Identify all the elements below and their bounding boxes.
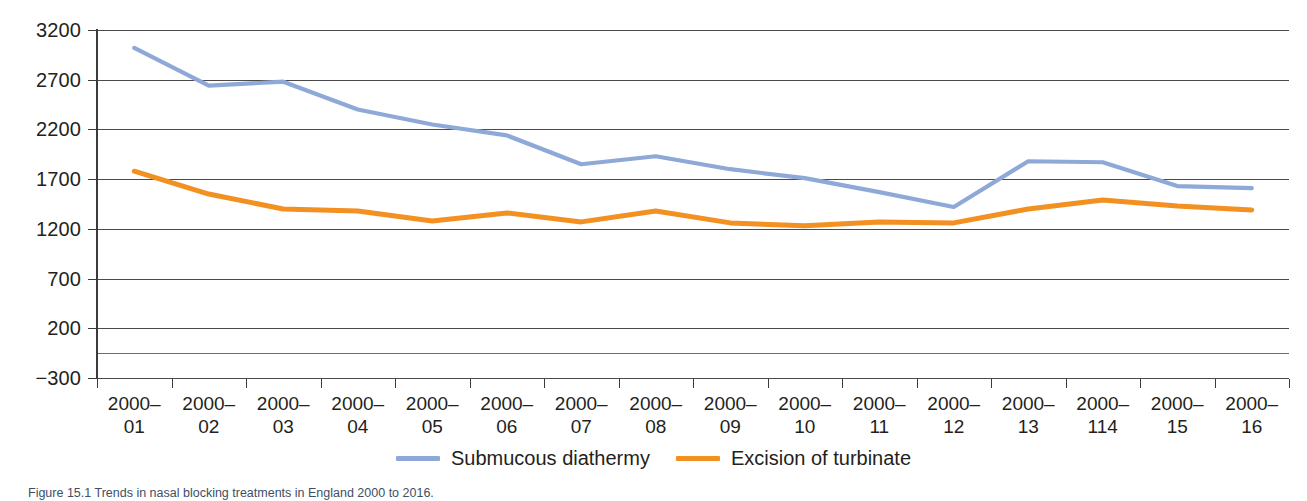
x-axis-tick (321, 379, 322, 388)
chart-legend: Submucous diathermyExcision of turbinate (0, 447, 1307, 469)
x-axis-tick (693, 379, 694, 388)
x-axis-tick (470, 379, 471, 388)
legend-label: Excision of turbinate (731, 447, 911, 469)
y-axis-tick-label: 200 (47, 318, 81, 338)
x-axis-tick (917, 379, 918, 388)
y-axis-tick-label: −300 (36, 368, 81, 388)
y-axis-tick-label: 2700 (36, 70, 81, 90)
x-axis-tick (1215, 379, 1216, 388)
x-axis-label-line1: 2000– (1204, 392, 1300, 415)
x-axis-tick (991, 379, 992, 388)
x-axis-tick (1289, 379, 1290, 388)
legend-swatch-icon (676, 456, 720, 461)
plot-area (97, 30, 1289, 378)
x-axis-tick (768, 379, 769, 388)
x-axis-tick (619, 379, 620, 388)
x-axis-tick (544, 379, 545, 388)
series-layer (97, 30, 1289, 378)
y-axis-tick-label: 700 (47, 269, 81, 289)
y-axis-tick-label: 1200 (36, 219, 81, 239)
series-line-1 (134, 48, 1252, 207)
x-axis-label-line2: 16 (1204, 415, 1300, 438)
legend-entry[interactable]: Submucous diathermy (396, 447, 650, 469)
x-axis-tick (1140, 379, 1141, 388)
y-axis-tick-label: 1700 (36, 169, 81, 189)
legend-entry[interactable]: Excision of turbinate (676, 447, 911, 469)
x-axis-tick (172, 379, 173, 388)
y-axis-tick-label: 2200 (36, 119, 81, 139)
x-axis-tick (97, 379, 98, 388)
legend-label: Submucous diathermy (451, 447, 650, 469)
x-axis-tick (1066, 379, 1067, 388)
x-axis-tick (842, 379, 843, 388)
x-axis-tick (395, 379, 396, 388)
legend-swatch-icon (396, 456, 440, 461)
figure-caption: Figure 15.1 Trends in nasal blocking tre… (28, 486, 1288, 501)
y-axis-tick-label: 3200 (36, 20, 81, 40)
series-line-2 (134, 171, 1252, 226)
x-axis-tick-label: 2000–16 (1204, 392, 1300, 438)
x-axis-tick (246, 379, 247, 388)
